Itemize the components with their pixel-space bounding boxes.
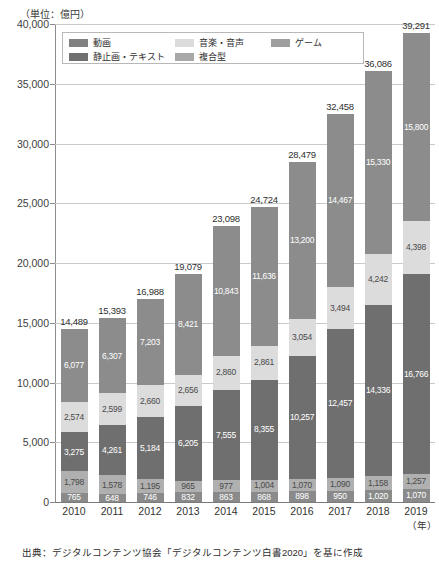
y-axis-tick-label: 35,000 xyxy=(3,78,49,90)
bar-segment-composite[interactable]: 950 xyxy=(327,491,354,502)
bar-segment-composite[interactable]: 648 xyxy=(99,494,126,502)
bar-column[interactable]: 1,0201,15814,3364,24215,33036,086 xyxy=(365,71,392,502)
bar-segment-composite[interactable]: 863 xyxy=(213,492,240,502)
bar-segment-still_text[interactable]: 4,261 xyxy=(99,425,126,476)
bar-segment-game[interactable]: 1,158 xyxy=(365,476,392,490)
bar-segment-still_text[interactable]: 5,184 xyxy=(137,417,164,479)
bar-column[interactable]: 9501,09012,4573,49414,46732,458 xyxy=(327,114,354,502)
bar-column[interactable]: 7461,1955,1842,6607,20316,988 xyxy=(137,299,164,502)
bar-segment-value: 8,421 xyxy=(178,320,198,329)
bar-segment-game[interactable]: 965 xyxy=(175,481,202,493)
bar-segment-video[interactable]: 8,421 xyxy=(175,274,202,375)
bar-segment-composite[interactable]: 1,070 xyxy=(403,489,430,502)
legend-item[interactable]: ゲーム xyxy=(271,36,322,49)
bar-segment-music_audio[interactable]: 3,494 xyxy=(327,287,354,329)
legend-item[interactable]: 音楽・音声 xyxy=(175,36,244,49)
bar-segment-value: 10,843 xyxy=(214,287,238,296)
bar-segment-music_audio[interactable]: 4,242 xyxy=(365,254,392,305)
bar-segment-value: 12,457 xyxy=(328,399,352,408)
bar-segment-still_text[interactable]: 14,336 xyxy=(365,305,392,476)
bar-segment-value: 6,307 xyxy=(102,352,122,361)
legend-item[interactable]: 複合型 xyxy=(175,50,226,63)
bar-segment-still_text[interactable]: 6,205 xyxy=(175,406,202,480)
bar-segment-still_text[interactable]: 10,257 xyxy=(289,356,316,479)
x-axis-tick-label: 2017 xyxy=(328,505,351,517)
bar-segment-game[interactable]: 1,090 xyxy=(327,478,354,491)
bar-segment-game[interactable]: 977 xyxy=(213,480,240,492)
bar-segment-composite[interactable]: 898 xyxy=(289,491,316,502)
bar-segment-game[interactable]: 1,195 xyxy=(137,479,164,493)
bar-segment-video[interactable]: 15,800 xyxy=(403,33,430,222)
x-axis-unit-label: （年） xyxy=(407,518,437,532)
bar-segment-value: 14,336 xyxy=(366,386,390,395)
bar-segment-game[interactable]: 1,070 xyxy=(289,479,316,492)
legend-item[interactable]: 静止画・テキスト xyxy=(69,50,165,63)
bar-segment-composite[interactable]: 1,020 xyxy=(365,490,392,502)
bar-segment-value: 898 xyxy=(295,492,308,501)
bar-segment-music_audio[interactable]: 2,660 xyxy=(137,385,164,417)
bar-segment-video[interactable]: 7,203 xyxy=(137,299,164,385)
bar-segment-music_audio[interactable]: 3,054 xyxy=(289,319,316,355)
x-axis-tick-label: 2014 xyxy=(214,505,237,517)
bar-segment-composite[interactable]: 746 xyxy=(137,493,164,502)
bar-segment-music_audio[interactable]: 2,656 xyxy=(175,375,202,407)
bar-column[interactable]: 8639777,5552,86010,84323,098 xyxy=(213,226,240,502)
bar-segment-value: 7,555 xyxy=(216,431,236,440)
bar-segment-game[interactable]: 1,798 xyxy=(61,471,88,492)
bar-segment-composite[interactable]: 832 xyxy=(175,492,202,502)
legend-label: 複合型 xyxy=(199,50,226,63)
legend-item[interactable]: 動画 xyxy=(69,36,111,49)
bar-segment-value: 10,257 xyxy=(290,413,314,422)
bar-segment-value: 1,158 xyxy=(368,479,388,488)
bar-segment-value: 648 xyxy=(105,494,118,503)
bar-segment-music_audio[interactable]: 2,574 xyxy=(61,402,88,433)
bar-total-label: 24,724 xyxy=(250,194,277,205)
y-axis-tick-label: 10,000 xyxy=(3,377,49,389)
bar-segment-music_audio[interactable]: 2,599 xyxy=(99,393,126,424)
bar-column[interactable]: 8329656,2052,6568,42119,079 xyxy=(175,274,202,502)
bar-column[interactable]: 8681,0048,3552,86111,63624,724 xyxy=(251,207,278,502)
bar-column[interactable]: 8981,07010,2573,05413,20028,479 xyxy=(289,162,316,502)
x-axis-tick-label: 2012 xyxy=(138,505,161,517)
bar-segment-value: 3,054 xyxy=(292,333,312,342)
x-axis-tick-label: 2019 xyxy=(404,505,427,517)
stacked-bar-group: 7651,7983,2752,5746,07714,4896481,5784,2… xyxy=(55,24,435,502)
bar-column[interactable]: 1,0701,25716,7664,39815,80039,291 xyxy=(403,33,430,502)
bar-segment-video[interactable]: 6,307 xyxy=(99,318,126,393)
bar-segment-value: 1,578 xyxy=(102,481,122,490)
bar-segment-music_audio[interactable]: 2,861 xyxy=(251,346,278,380)
bar-segment-value: 1,195 xyxy=(140,482,160,491)
bar-segment-value: 4,398 xyxy=(406,243,426,252)
bar-segment-video[interactable]: 14,467 xyxy=(327,114,354,287)
bar-segment-value: 3,275 xyxy=(64,448,84,457)
bar-segment-value: 2,860 xyxy=(216,368,236,377)
bar-segment-value: 2,861 xyxy=(254,358,274,367)
bar-segment-still_text[interactable]: 7,555 xyxy=(213,390,240,480)
bar-segment-video[interactable]: 11,636 xyxy=(251,207,278,346)
bar-total-label: 28,479 xyxy=(288,149,315,160)
bar-segment-game[interactable]: 1,578 xyxy=(99,475,126,494)
bar-segment-video[interactable]: 13,200 xyxy=(289,162,316,320)
bar-segment-video[interactable]: 6,077 xyxy=(61,329,88,402)
bar-column[interactable]: 6481,5784,2612,5996,30715,393 xyxy=(99,318,126,502)
bar-segment-game[interactable]: 1,004 xyxy=(251,480,278,492)
bar-segment-composite[interactable]: 868 xyxy=(251,492,278,502)
bar-segment-value: 4,261 xyxy=(102,446,122,455)
bar-segment-music_audio[interactable]: 2,860 xyxy=(213,356,240,390)
x-axis-tick-label: 2015 xyxy=(252,505,275,517)
bar-segment-video[interactable]: 15,330 xyxy=(365,71,392,254)
bar-segment-value: 977 xyxy=(219,482,232,491)
bar-segment-still_text[interactable]: 3,275 xyxy=(61,432,88,471)
bar-segment-game[interactable]: 1,257 xyxy=(403,474,430,489)
bar-segment-value: 832 xyxy=(181,493,194,502)
bar-segment-still_text[interactable]: 12,457 xyxy=(327,329,354,478)
bar-segment-video[interactable]: 10,843 xyxy=(213,226,240,356)
bar-segment-still_text[interactable]: 8,355 xyxy=(251,380,278,480)
bar-segment-value: 2,599 xyxy=(102,405,122,414)
bar-column[interactable]: 7651,7983,2752,5746,07714,489 xyxy=(61,329,88,502)
source-note: 出典：デジタルコンテンツ協会「デジタルコンテンツ白書2020」を基に作成 xyxy=(22,545,363,559)
chart-plot-area: 05,00010,00015,00020,00025,00030,00035,0… xyxy=(55,24,435,502)
bar-segment-music_audio[interactable]: 4,398 xyxy=(403,221,430,274)
bar-segment-still_text[interactable]: 16,766 xyxy=(403,274,430,474)
bar-segment-composite[interactable]: 765 xyxy=(61,493,88,502)
